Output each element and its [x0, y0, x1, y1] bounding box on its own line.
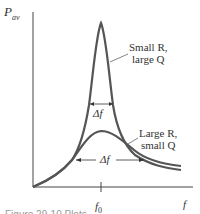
bandwidth-label-broad: Δf	[100, 153, 110, 165]
y-axis-label: Pav	[4, 6, 20, 24]
annotation-sharp-line1: Small R,	[129, 41, 168, 53]
bandwidth-label-sharp: Δf	[93, 107, 103, 119]
bandwidth-arrow-sharp	[90, 102, 113, 106]
annotation-broad-line2: small Q	[139, 139, 177, 151]
annotation-broad-curve: Large R, small Q	[139, 127, 177, 151]
resonant-frequency-label: f0	[95, 200, 102, 214]
annotation-sharp-curve: Small R, large Q	[129, 41, 168, 65]
resonance-figure: Pav Small R, large Q Large R, small Q Δf…	[0, 0, 200, 214]
x-axis-label: f	[183, 198, 186, 210]
figure-caption: Figure 29-10 Plots	[5, 209, 87, 214]
leader-broad	[128, 138, 138, 144]
leader-sharp	[110, 54, 128, 62]
annotation-sharp-line2: large Q	[129, 53, 168, 65]
annotation-broad-line1: Large R,	[139, 127, 177, 139]
bandwidth-arrow-broad	[76, 158, 144, 162]
